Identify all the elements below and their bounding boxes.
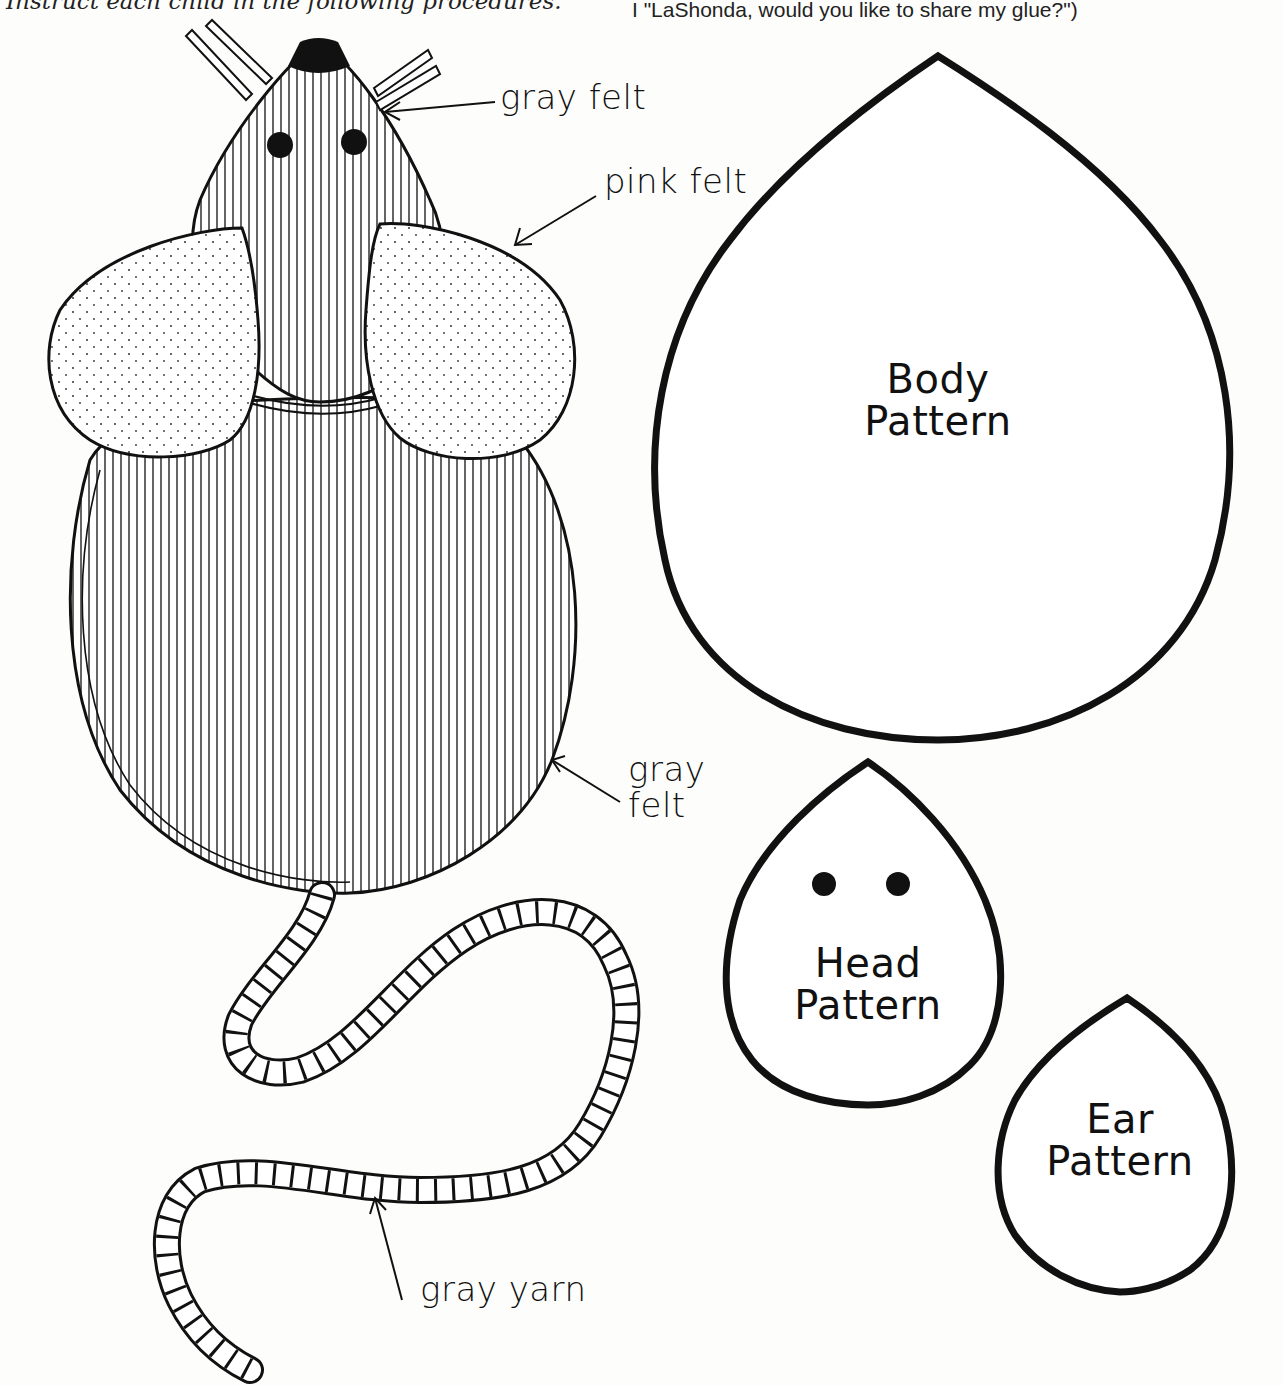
body-pattern-label: Body Pattern bbox=[848, 358, 1028, 442]
body-pattern-label-line2: Pattern bbox=[848, 400, 1028, 442]
ear-right-icon bbox=[365, 224, 575, 459]
label-pink-felt-ear: pink felt bbox=[604, 164, 747, 198]
nose-icon bbox=[288, 38, 350, 73]
mouse-body-icon bbox=[70, 397, 576, 893]
eye-icon bbox=[341, 129, 367, 155]
ear-left-icon bbox=[49, 228, 259, 457]
head-pattern-label-line1: Head bbox=[778, 942, 958, 984]
head-pattern-label-line2: Pattern bbox=[778, 984, 958, 1026]
ear-pattern-label-line2: Pattern bbox=[1030, 1140, 1210, 1182]
label-gray-yarn-tail: gray yarn bbox=[420, 1272, 587, 1306]
ear-pattern-label-line1: Ear bbox=[1030, 1098, 1210, 1140]
head-pattern-label: Head Pattern bbox=[778, 942, 958, 1026]
label-gray-felt-body: gray felt bbox=[628, 752, 708, 823]
body-pattern-label-line1: Body bbox=[848, 358, 1028, 400]
head-pattern-outline bbox=[726, 762, 1000, 1105]
eye-icon bbox=[267, 132, 293, 158]
ear-pattern-label: Ear Pattern bbox=[1030, 1098, 1210, 1182]
head-pattern-eye-icon bbox=[812, 872, 836, 896]
label-gray-felt-head: gray felt bbox=[500, 80, 646, 114]
head-pattern-eye-icon bbox=[886, 872, 910, 896]
